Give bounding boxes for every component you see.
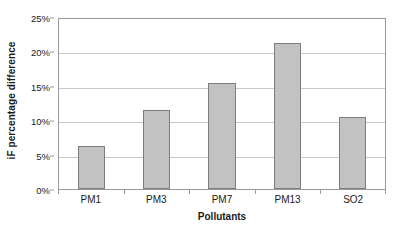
y-axis-tick-label: 10% [31, 116, 50, 127]
y-axis-tick-mark [50, 155, 54, 156]
bar-so2[interactable] [339, 117, 366, 189]
y-axis-tick-mark [50, 18, 54, 19]
x-axis-tick-labels: PM1PM3PM7PM13SO2 [58, 194, 386, 205]
bar-series [59, 19, 385, 189]
bar-pm3[interactable] [143, 110, 170, 189]
y-axis-title-text: iF percentage difference [6, 41, 17, 159]
bar-chart-figure: iF percentage difference 0%5%10%15%20%25… [0, 0, 401, 237]
x-axis-tick-label: SO2 [320, 194, 386, 205]
y-axis-tick-label: 25% [31, 13, 50, 24]
y-axis-tick-mark [50, 52, 54, 53]
y-axis-tick-labels: 0%5%10%15%20%25% [18, 12, 54, 194]
y-axis-tick-mark [50, 121, 54, 122]
plot-area [58, 18, 386, 190]
y-axis-tick-mark [50, 190, 54, 191]
bar-pm1[interactable] [78, 146, 105, 189]
x-axis-tick-label: PM13 [255, 194, 321, 205]
y-axis-tick-label: 0% [36, 185, 50, 196]
x-axis-tick-label: PM7 [189, 194, 255, 205]
x-axis-tick-label: PM3 [124, 194, 190, 205]
bar-pm7[interactable] [208, 83, 235, 189]
bar-slot [124, 19, 189, 189]
bar-slot [320, 19, 385, 189]
x-axis-title: Pollutants [58, 211, 386, 222]
y-axis-tick-label: 5% [36, 150, 50, 161]
y-axis-tick-label: 15% [31, 81, 50, 92]
bar-slot [255, 19, 320, 189]
bar-slot [189, 19, 254, 189]
bar-pm13[interactable] [274, 43, 301, 189]
y-axis-tick-label: 20% [31, 47, 50, 58]
y-axis-tick-mark [50, 86, 54, 87]
x-axis-tick-label: PM1 [58, 194, 124, 205]
bar-slot [59, 19, 124, 189]
